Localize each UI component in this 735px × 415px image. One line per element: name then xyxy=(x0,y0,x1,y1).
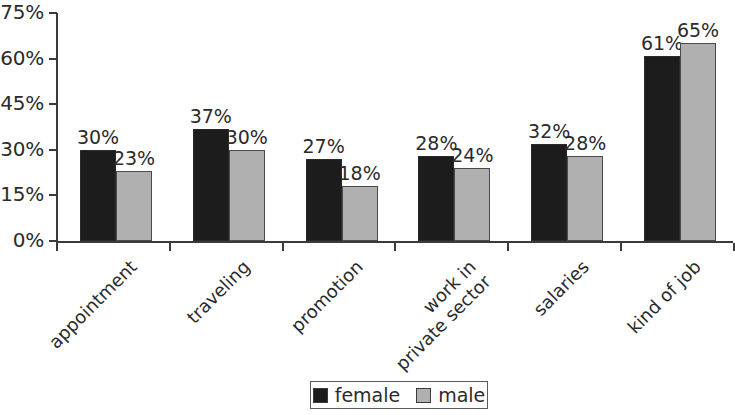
y-axis-tick-label: 75% xyxy=(0,2,44,22)
bar-value-label: 18% xyxy=(334,164,386,183)
bar-value-label: 23% xyxy=(108,149,160,168)
y-axis-tick-label: 15% xyxy=(0,184,44,204)
y-axis-tick xyxy=(49,149,57,151)
bar-male-traveling xyxy=(229,150,265,241)
y-axis-tick xyxy=(49,103,57,105)
bar-female-work-in-private-sector xyxy=(418,156,454,241)
legend-swatch-icon xyxy=(416,388,431,403)
bar-value-label: 28% xyxy=(559,134,611,153)
y-axis-tick-label: 30% xyxy=(0,139,44,159)
bar-value-label: 24% xyxy=(446,146,498,165)
bar-value-label: 30% xyxy=(221,128,273,147)
legend-item-male: male xyxy=(416,386,485,405)
legend-label: male xyxy=(438,386,485,405)
x-axis-tick xyxy=(56,243,58,251)
chart-legend: femalemale xyxy=(310,381,488,409)
y-axis-tick-label: 45% xyxy=(0,93,44,113)
bar-male-work-in-private-sector xyxy=(454,168,490,241)
bar-male-salaries xyxy=(567,156,603,241)
bar-male-kind-of-job xyxy=(680,43,716,241)
x-axis-tick xyxy=(169,243,171,251)
bar-value-label: 27% xyxy=(298,137,350,156)
x-axis-tick xyxy=(394,243,396,251)
x-axis-tick xyxy=(282,243,284,251)
y-axis-tick xyxy=(49,194,57,196)
bar-male-promotion xyxy=(342,186,378,241)
y-axis-tick-label: 60% xyxy=(0,48,44,68)
bar-female-kind-of-job xyxy=(644,56,680,241)
y-axis-tick-label: 0% xyxy=(0,230,44,250)
bar-value-label: 65% xyxy=(672,21,724,40)
y-axis-tick xyxy=(49,12,57,14)
legend-item-female: female xyxy=(313,386,401,405)
bar-value-label: 30% xyxy=(72,128,124,147)
y-axis-line xyxy=(56,13,58,242)
x-axis-tick xyxy=(507,243,509,251)
legend-label: female xyxy=(335,386,401,405)
bar-value-label: 37% xyxy=(185,107,237,126)
bar-male-appointment xyxy=(116,171,152,241)
x-axis-tick xyxy=(620,243,622,251)
bar-female-salaries xyxy=(531,144,567,241)
y-axis-tick xyxy=(49,58,57,60)
legend-swatch-icon xyxy=(313,388,328,403)
